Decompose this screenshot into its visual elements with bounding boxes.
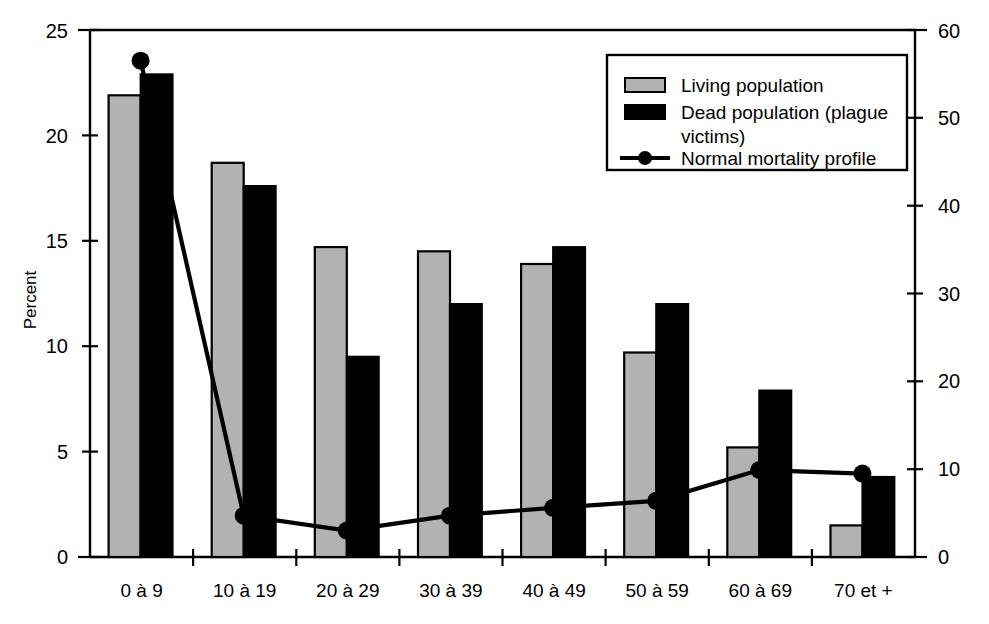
right-tick-label-50: 50 bbox=[938, 107, 960, 129]
category-labels-layer: 0 à 910 à 1920 à 2930 à 3940 à 4950 à 59… bbox=[120, 580, 892, 601]
category-label-2: 20 à 29 bbox=[316, 580, 379, 601]
left-tick-label-15: 15 bbox=[46, 230, 68, 252]
mortality-bar-chart: 0 5 10 15 20 25 0 10 20 30 40 50 60 Perc… bbox=[0, 0, 989, 624]
chart-container: 0 5 10 15 20 25 0 10 20 30 40 50 60 Perc… bbox=[0, 0, 989, 624]
legend-dot-icon bbox=[638, 151, 652, 165]
bar-dead-0 bbox=[141, 74, 173, 557]
legend-label-dead-cont: victims) bbox=[681, 126, 745, 147]
bar-living-5 bbox=[624, 353, 656, 558]
right-tick-label-0: 0 bbox=[938, 546, 949, 568]
left-tick-label-5: 5 bbox=[57, 441, 68, 463]
category-label-6: 60 à 69 bbox=[729, 580, 792, 601]
profile-marker-4 bbox=[544, 499, 562, 517]
profile-marker-0 bbox=[132, 52, 150, 70]
right-tick-label-30: 30 bbox=[938, 283, 960, 305]
legend-label-profile: Normal mortality profile bbox=[681, 148, 876, 169]
left-tick-label-20: 20 bbox=[46, 125, 68, 147]
legend-swatch-living bbox=[625, 78, 665, 92]
profile-marker-2 bbox=[338, 522, 356, 540]
profile-marker-6 bbox=[750, 461, 768, 479]
bar-living-2 bbox=[315, 247, 347, 557]
right-tick-label-40: 40 bbox=[938, 195, 960, 217]
category-label-7: 70 et + bbox=[834, 580, 893, 601]
chart-legend: Living population Dead population (plagu… bbox=[607, 55, 907, 170]
profile-marker-1 bbox=[235, 507, 253, 525]
left-tick-label-0: 0 bbox=[57, 546, 68, 568]
category-label-3: 30 à 39 bbox=[419, 580, 482, 601]
profile-marker-5 bbox=[647, 492, 665, 510]
profile-marker-3 bbox=[441, 507, 459, 525]
profile-marker-7 bbox=[853, 465, 871, 483]
right-tick-label-10: 10 bbox=[938, 458, 960, 480]
y-axis-title: Percent bbox=[21, 270, 40, 329]
bar-dead-5 bbox=[656, 304, 688, 557]
category-label-1: 10 à 19 bbox=[213, 580, 276, 601]
legend-label-dead: Dead population (plague bbox=[681, 102, 888, 123]
bar-living-7 bbox=[831, 525, 863, 557]
legend-swatch-dead bbox=[625, 105, 665, 119]
right-tick-label-20: 20 bbox=[938, 370, 960, 392]
right-tick-label-60: 60 bbox=[938, 20, 960, 42]
category-label-4: 40 à 49 bbox=[522, 580, 585, 601]
category-label-0: 0 à 9 bbox=[120, 580, 162, 601]
legend-label-living: Living population bbox=[681, 75, 824, 96]
left-tick-label-10: 10 bbox=[46, 335, 68, 357]
bar-living-0 bbox=[109, 95, 141, 557]
category-label-5: 50 à 59 bbox=[625, 580, 688, 601]
bar-dead-1 bbox=[244, 186, 276, 557]
left-tick-label-25: 25 bbox=[46, 20, 68, 42]
bar-dead-7 bbox=[862, 477, 894, 557]
